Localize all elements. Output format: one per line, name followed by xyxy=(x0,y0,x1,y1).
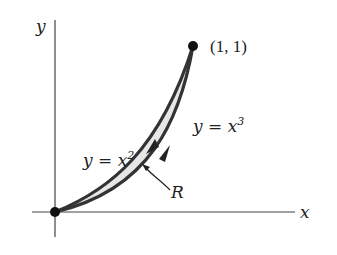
point-label: (1, 1) xyxy=(210,37,247,56)
point-1-1 xyxy=(188,41,198,51)
arrow-up-icon xyxy=(159,145,170,162)
origin-point xyxy=(50,207,60,217)
region-pointer-arrow xyxy=(145,167,170,190)
label-y-x2: y = x2 xyxy=(82,149,134,170)
pointer-arrowhead-icon xyxy=(142,164,150,171)
region-diagram: y x (1, 1) y = x3 y = x2 R xyxy=(0,0,337,255)
y-axis-label: y xyxy=(35,16,46,36)
label-y-x3: y = x3 xyxy=(192,115,244,136)
x-axis-label: x xyxy=(300,202,310,222)
region-label: R xyxy=(170,182,184,202)
